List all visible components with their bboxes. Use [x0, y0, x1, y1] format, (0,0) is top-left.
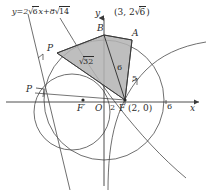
- x-tick-label-2: 2: [110, 104, 115, 112]
- origin-label: O: [95, 104, 102, 113]
- y-axis-label: y: [95, 9, 100, 18]
- point-label-P-upper: P: [47, 44, 53, 53]
- radical-6-coord: √6: [135, 8, 146, 17]
- radicand-14: 14: [59, 6, 70, 16]
- point-label-F-prime: F′: [77, 104, 85, 113]
- radical-32: √32: [79, 58, 94, 66]
- radicand-32: 32: [83, 56, 94, 66]
- point-A-coordinates: (3, 2√6): [114, 8, 150, 17]
- x-tick-label-6: 6: [167, 103, 172, 111]
- equation-plus: +: [43, 7, 50, 16]
- point-dot-F-prime: [81, 98, 84, 101]
- radicand-6: 6: [32, 6, 38, 16]
- right-angle-marker: [36, 88, 44, 97]
- tangent-line-equation: y=2√6x+8√14: [12, 8, 70, 16]
- segment-PB-length: √32: [79, 58, 94, 66]
- segment-AF-length: 5: [132, 75, 137, 83]
- coord-prefix: (3, 2: [114, 7, 135, 17]
- point-label-A: A: [132, 29, 139, 38]
- radicand-6-coord: 6: [139, 6, 146, 17]
- radical-14: √14: [55, 8, 70, 16]
- segment-BF-length: 6: [117, 64, 122, 72]
- point-dot-F: [123, 98, 126, 101]
- x-axis-label: x: [190, 104, 195, 113]
- coord-suffix: ): [146, 7, 150, 17]
- geometry-figure: y=2√6x+8√14 (3, 2√6) y x O B A P P F′ F …: [0, 0, 206, 190]
- radical-6: √6: [28, 8, 38, 16]
- point-label-F-coordinates: F (2, 0): [119, 104, 152, 113]
- point-label-P-foot: P: [26, 85, 32, 94]
- point-label-B: B: [97, 24, 104, 33]
